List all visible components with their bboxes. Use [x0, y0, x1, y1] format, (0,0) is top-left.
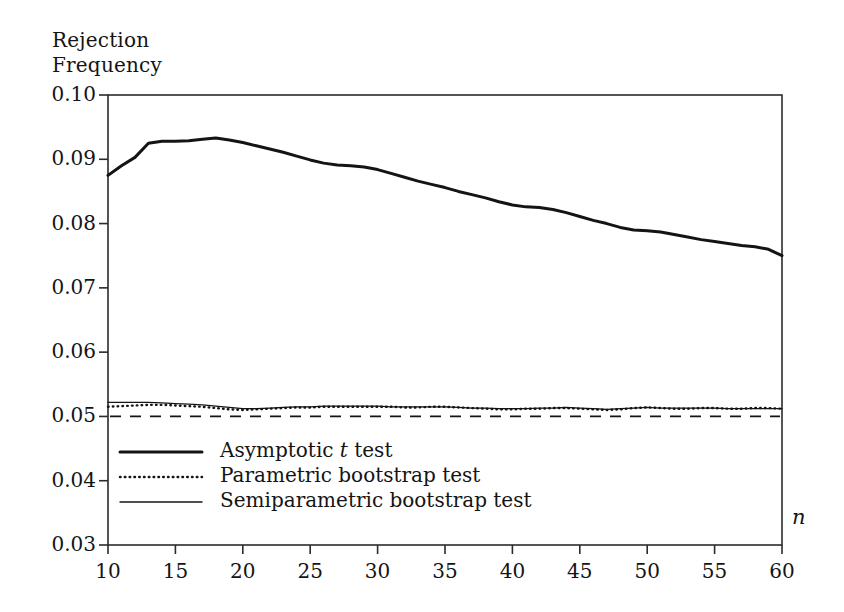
legend-label-0: Asymptotic t test: [220, 438, 392, 462]
x-axis-label: n: [792, 505, 806, 529]
legend-label-2: Semiparametric bootstrap test: [220, 488, 532, 512]
legend-label-1: Parametric bootstrap test: [220, 463, 480, 487]
series-line-0: [108, 138, 782, 256]
legend-label-emphasis-0: t: [340, 438, 348, 462]
plot-canvas: [0, 0, 844, 612]
rejection-frequency-chart: RejectionFrequency 0.100.090.080.070.060…: [0, 0, 844, 612]
